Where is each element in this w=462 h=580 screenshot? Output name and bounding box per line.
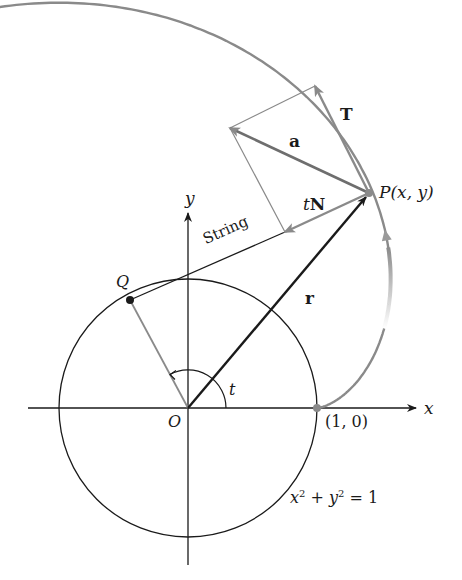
involute-diagram: x y O t P(x, y) Q (1, 0) String r a T tN… [0, 0, 462, 580]
diagram-canvas [0, 0, 462, 580]
angle-label: t [229, 382, 235, 398]
point-Q [126, 296, 134, 304]
circle-equation-label: x2 + y2 = 1 [290, 489, 378, 506]
parallelogram-edge [230, 86, 315, 128]
vector-r-label: r [305, 290, 314, 307]
vector-tN-vector: N [310, 194, 326, 214]
y-axis-label: y [185, 190, 195, 207]
direction-arrow [384, 248, 391, 329]
vector-tN-scalar: t [303, 194, 310, 214]
eq-y: y [329, 488, 338, 507]
eq-x: x [290, 488, 299, 507]
point-Q-label: Q [116, 274, 129, 290]
radius-OQ [130, 300, 188, 408]
vector-T [315, 86, 369, 193]
vector-tN-label: tN [303, 196, 325, 213]
origin-label: O [168, 414, 181, 430]
eq-rest: = 1 [344, 488, 378, 507]
vector-T-label: T [340, 106, 353, 123]
direction-arrowhead [382, 230, 392, 242]
point-P [365, 189, 373, 197]
eq-plus: + [305, 488, 329, 507]
vector-tN [285, 193, 369, 232]
point-one-zero [313, 404, 321, 412]
vector-a-label: a [289, 133, 300, 150]
x-axis-label: x [424, 400, 434, 417]
point-P-label: P(x, y) [379, 184, 434, 201]
involute-curve [0, 3, 391, 408]
point-one-zero-label: (1, 0) [325, 414, 368, 430]
